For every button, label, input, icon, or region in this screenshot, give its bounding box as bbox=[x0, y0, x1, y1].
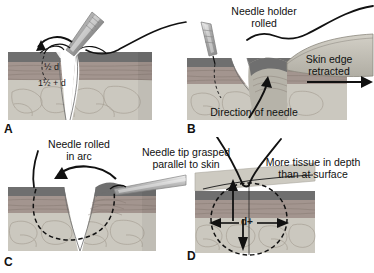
label-needle-rolled-in-arc: Needle rolled in arc bbox=[26, 139, 132, 162]
panel-a: ½ d 1½ + d A bbox=[0, 0, 187, 136]
panel-letter-a: A bbox=[4, 122, 13, 136]
label-more-tissue-in-depth: More tissue in depth than at surface bbox=[253, 157, 373, 180]
panel-b: Needle holder rolled Skin edge retracted… bbox=[187, 0, 374, 136]
panel-letter-d: D bbox=[187, 249, 196, 263]
rotation-arrow-c bbox=[54, 166, 116, 179]
label-d-plus: d+ bbox=[241, 216, 253, 227]
needle-holder-a bbox=[66, 12, 104, 56]
tissue-block-a bbox=[8, 52, 152, 120]
figure-canvas: ½ d 1½ + d A bbox=[0, 0, 374, 273]
panel-letter-c: C bbox=[4, 255, 13, 269]
panel-d: More tissue in depth than at surface d+ … bbox=[187, 137, 374, 273]
panel-letter-b: B bbox=[187, 122, 196, 136]
panel-c: Needle rolled in arc Needle tip grasped … bbox=[0, 137, 187, 273]
label-one-half-plus-d: 1½ + d bbox=[38, 78, 66, 88]
label-needle-holder-rolled: Needle holder rolled bbox=[209, 6, 319, 29]
label-skin-edge-retracted: Skin edge retracted bbox=[291, 54, 367, 77]
panel-a-graphic bbox=[0, 0, 187, 136]
label-direction-of-needle: Direction of needle bbox=[193, 107, 315, 119]
label-half-d: ½ d bbox=[44, 62, 59, 72]
